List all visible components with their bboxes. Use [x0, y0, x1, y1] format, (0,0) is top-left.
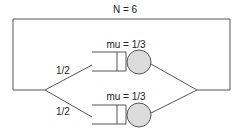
lower-queue: mu = 1/3 — [92, 91, 151, 127]
lower-server-icon — [127, 103, 151, 127]
lower-probability-label: 1/2 — [56, 106, 70, 117]
lower-rate-label: mu = 1/3 — [106, 91, 146, 102]
population-label: N = 6 — [113, 4, 138, 15]
feedback-loop — [13, 19, 230, 90]
lower-merge-line — [151, 90, 197, 113]
upper-server-icon — [127, 50, 151, 74]
upper-rate-label: mu = 1/3 — [106, 39, 146, 50]
upper-queue: mu = 1/3 — [92, 39, 151, 74]
upper-merge-line — [151, 64, 197, 90]
queueing-network-diagram: N = 6 1/2 1/2 mu = 1/3 mu = 1/3 — [0, 0, 239, 136]
upper-probability-label: 1/2 — [56, 65, 70, 76]
